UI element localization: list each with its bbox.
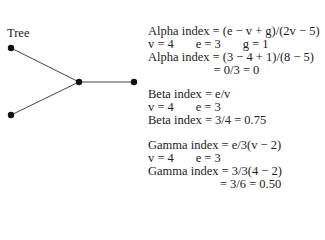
node	[76, 79, 82, 85]
edge	[11, 48, 79, 82]
beta-calc: Beta index = 3/4 = 0.75	[148, 114, 266, 127]
node	[8, 112, 14, 118]
gamma-result: = 3/6 = 0.50	[148, 178, 281, 191]
edge	[11, 82, 79, 115]
alpha-result: = 0/3 = 0	[148, 64, 259, 77]
node	[131, 79, 137, 85]
node	[8, 45, 14, 51]
